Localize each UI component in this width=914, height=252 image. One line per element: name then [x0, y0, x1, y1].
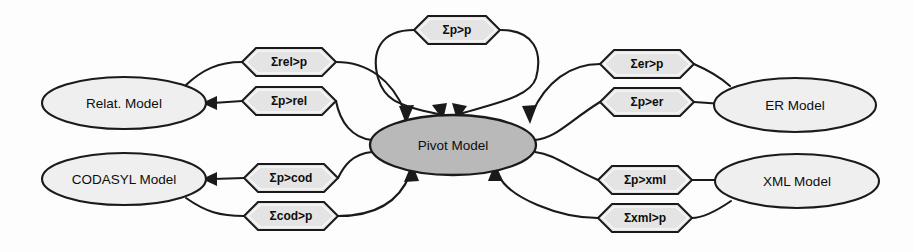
transformation-cod-to-p[interactable]: Σcod>p	[244, 202, 338, 230]
transformation-er-to-p-label: Σer>p	[631, 57, 664, 71]
relational-model-label: Relat. Model	[86, 96, 162, 111]
node-codasyl-model[interactable]: CODASYL Model	[42, 153, 206, 205]
er-model-label: ER Model	[765, 98, 824, 113]
edge-er-to-pivot-right	[694, 64, 730, 86]
transformation-xml-to-p-label: Σxml>p	[624, 211, 666, 225]
edge-pivot-to-codasyl-right	[338, 152, 372, 178]
transformation-cod-to-p-label: Σcod>p	[270, 209, 313, 223]
node-xml-model[interactable]: XML Model	[715, 154, 879, 208]
diagram-canvas: Relat. Model CODASYL Model Pivot Model E…	[0, 0, 914, 252]
edge-er-to-pivot-left	[532, 64, 600, 113]
transformation-p-to-rel-label: Σp>rel	[271, 94, 307, 108]
pivot-model-label: Pivot Model	[418, 138, 489, 153]
edge-codasyl-to-pivot-left	[186, 198, 244, 216]
arrowhead-into-pivot-upper-right	[522, 105, 537, 124]
transformation-p-to-er[interactable]: Σp>er	[600, 88, 694, 116]
transformation-er-to-p[interactable]: Σer>p	[600, 50, 694, 78]
node-pivot-model[interactable]: Pivot Model	[370, 115, 536, 175]
transformation-p-to-cod-label: Σp>cod	[270, 171, 313, 185]
edge-pivot-to-relational-left	[213, 101, 242, 103]
edge-relational-to-pivot-right	[336, 62, 405, 112]
node-er-model[interactable]: ER Model	[714, 78, 876, 132]
transformation-p-to-xml-label: Σp>xml	[624, 173, 666, 187]
edge-pivot-to-er-left	[535, 102, 600, 140]
transformation-p-to-cod[interactable]: Σp>cod	[244, 164, 338, 192]
transformation-p-to-er-label: Σp>er	[631, 95, 664, 109]
transformation-diagram: Relat. Model CODASYL Model Pivot Model E…	[0, 0, 914, 252]
node-relational-model[interactable]: Relat. Model	[42, 77, 206, 129]
codasyl-model-label: CODASYL Model	[72, 172, 177, 187]
transformation-rel-to-p-label: Σrel>p	[271, 55, 307, 69]
transformation-p-to-xml[interactable]: Σp>xml	[598, 166, 692, 194]
transformation-p-to-rel[interactable]: Σp>rel	[242, 87, 336, 115]
edge-codasyl-to-pivot-right	[338, 174, 410, 216]
xml-model-label: XML Model	[763, 174, 831, 189]
edge-xml-to-pivot-left	[498, 174, 598, 218]
transformation-rel-to-p[interactable]: Σrel>p	[242, 48, 336, 76]
edge-pivot-to-xml-left	[535, 152, 598, 180]
transformation-xml-to-p[interactable]: Σxml>p	[598, 204, 692, 232]
edge-pivot-to-relational-right	[336, 101, 372, 140]
transformation-p-to-p-label: Σp>p	[443, 23, 472, 37]
edge-relational-to-pivot-left	[186, 62, 242, 85]
edge-xml-to-pivot-right	[692, 201, 731, 218]
transformation-p-to-p[interactable]: Σp>p	[414, 16, 500, 44]
edge-pivot-to-codasyl-left	[213, 178, 244, 179]
